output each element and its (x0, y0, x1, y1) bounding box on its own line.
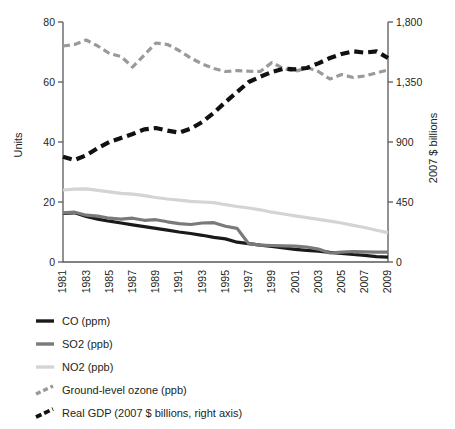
x-tick-label: 2003 (312, 270, 324, 294)
x-tick-label: 1983 (80, 270, 92, 294)
y2-tick-label: 1,800 (396, 16, 422, 28)
y-tick-label: 40 (43, 136, 55, 148)
x-tick-label: 2007 (358, 270, 370, 294)
x-tick-label: 2009 (381, 270, 393, 294)
x-tick-label: 1999 (265, 270, 277, 294)
y2-tick-label: 900 (396, 136, 414, 148)
y-tick-label: 60 (43, 76, 55, 88)
legend-item[interactable]: Real GDP (2007 $ billions, right axis) (36, 407, 242, 419)
y2-tick-label: 0 (396, 256, 402, 268)
x-tick-label: 1995 (219, 270, 231, 294)
x-tick-label: 1989 (149, 270, 161, 294)
x-tick-label: 2005 (335, 270, 347, 294)
x-tick-label: 2001 (289, 270, 301, 294)
air-quality-gdp-chart: 020406080 04509001,3501,800 198119831985… (0, 0, 455, 429)
x-tick-label: 1987 (126, 270, 138, 294)
x-tick-label: 1993 (196, 270, 208, 294)
x-tick-label: 1985 (103, 270, 115, 294)
x-tick-label: 1991 (172, 270, 184, 294)
y2-tick-label: 1,350 (396, 76, 422, 88)
legend-label: SO2 (ppb) (62, 338, 113, 350)
y-axis-title: Units (12, 132, 24, 158)
y-tick-label: 0 (49, 256, 55, 268)
x-tick-label: 1981 (56, 270, 68, 294)
x-tick-label: 1997 (242, 270, 254, 294)
y-tick-label: 20 (43, 196, 55, 208)
y-tick-label: 80 (43, 16, 55, 28)
x-axis-ticks: 1981198319851987198919911993199519971999… (56, 270, 393, 294)
legend-label: CO (ppm) (62, 315, 110, 327)
legend-label: Ground-level ozone (ppb) (62, 384, 187, 396)
y2-axis-title: 2007 $ billions (427, 112, 439, 183)
legend-label: Real GDP (2007 $ billions, right axis) (62, 407, 242, 419)
legend-label: NO2 (ppb) (62, 361, 113, 373)
y2-tick-label: 450 (396, 196, 414, 208)
